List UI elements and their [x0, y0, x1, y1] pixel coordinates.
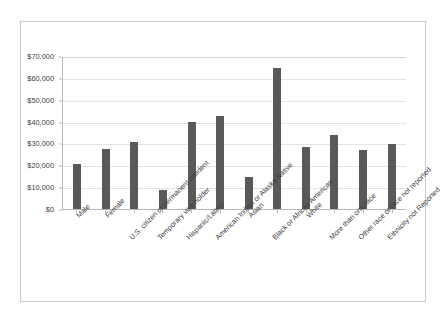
- bar-slot: [206, 57, 235, 209]
- y-axis-tick-mark: [59, 210, 62, 211]
- bar-chart: $0$10,000$20,000$30,000$40,000$50,000$60…: [0, 0, 446, 322]
- x-axis-tick-mark: [134, 210, 135, 213]
- y-axis-tick-mark: [59, 188, 62, 189]
- bar-slot: [92, 57, 121, 209]
- bar[interactable]: [330, 135, 338, 209]
- x-axis-tick-mark: [363, 210, 364, 213]
- bar-slot: [149, 57, 178, 209]
- plot-area: [62, 57, 406, 210]
- x-axis-tick-mark: [277, 210, 278, 213]
- bar-slot: [292, 57, 321, 209]
- bar[interactable]: [73, 164, 81, 209]
- x-axis-tick-mark: [334, 210, 335, 213]
- bar[interactable]: [102, 149, 110, 209]
- y-axis-tick-label: $40,000: [27, 119, 54, 126]
- y-axis-tick-label: $20,000: [27, 163, 54, 170]
- bar-slot: [377, 57, 406, 209]
- x-axis-tick-mark: [162, 210, 163, 213]
- x-axis-tick-mark: [220, 210, 221, 213]
- y-axis-tick-label: $60,000: [27, 75, 54, 82]
- x-axis: MaleFemaleU.S. citizen or permanent resi…: [62, 210, 406, 305]
- y-axis-tick-mark: [59, 57, 62, 58]
- y-axis-tick-mark: [59, 78, 62, 79]
- y-axis-tick-mark: [59, 144, 62, 145]
- y-axis-tick-label: $50,000: [27, 97, 54, 104]
- bar-slot: [234, 57, 263, 209]
- y-axis-tick-mark: [59, 100, 62, 101]
- x-axis-tick-mark: [392, 210, 393, 213]
- bar[interactable]: [273, 68, 281, 209]
- y-axis-tick-label: $10,000: [27, 184, 54, 191]
- bar-slot: [120, 57, 149, 209]
- y-axis-tick-mark: [59, 166, 62, 167]
- bars-group: [63, 57, 406, 209]
- y-axis-tick-label: $30,000: [27, 141, 54, 148]
- bar[interactable]: [216, 116, 224, 209]
- bar[interactable]: [130, 142, 138, 209]
- bar-slot: [349, 57, 378, 209]
- x-axis-tick-mark: [191, 210, 192, 213]
- bar-slot: [63, 57, 92, 209]
- y-axis: $0$10,000$20,000$30,000$40,000$50,000$60…: [0, 57, 58, 210]
- y-axis-tick-label: $70,000: [27, 53, 54, 60]
- y-axis-tick-label: $0: [46, 206, 54, 213]
- y-axis-tick-mark: [59, 122, 62, 123]
